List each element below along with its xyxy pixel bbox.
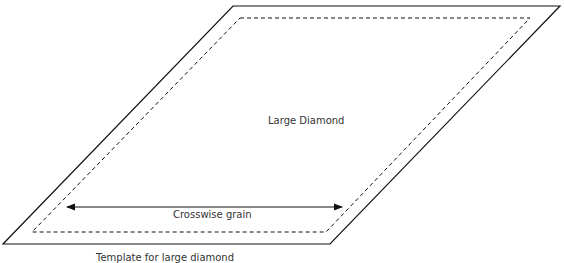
template-caption: Template for large diamond — [96, 252, 234, 263]
crosswise-grain-label: Crosswise grain — [173, 209, 252, 220]
large-diamond-label: Large Diamond — [268, 115, 344, 126]
